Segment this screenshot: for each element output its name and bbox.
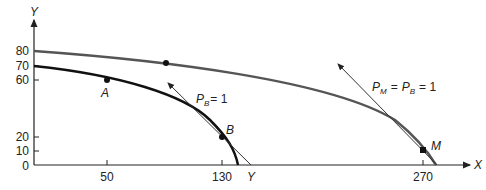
outer-frontier	[34, 51, 436, 165]
y-ticks: 80 70 60 20 10 0	[16, 44, 39, 173]
point-a	[104, 77, 110, 83]
svg-text:270: 270	[413, 170, 433, 184]
point-m	[420, 147, 426, 153]
svg-text:60: 60	[16, 73, 30, 87]
svg-text:70: 70	[16, 59, 30, 73]
chart: Y X 80 70 60 20 10 0 50 130 Y 270 A B M …	[0, 0, 486, 190]
x-ticks: 50 130 Y 270	[100, 160, 433, 184]
svg-text:80: 80	[16, 44, 30, 58]
svg-text:Y: Y	[247, 170, 256, 184]
x-axis-label: X	[473, 158, 483, 172]
svg-text:0: 0	[22, 159, 29, 173]
svg-text:130: 130	[212, 170, 232, 184]
svg-text:20: 20	[16, 130, 30, 144]
point-b	[219, 134, 225, 140]
label-a: A	[100, 86, 109, 100]
annotation-pb: PB= 1	[196, 92, 228, 108]
inner-frontier	[34, 66, 238, 165]
svg-text:10: 10	[16, 144, 30, 158]
point-top	[163, 60, 169, 66]
y-axis-label: Y	[30, 5, 39, 19]
annotation-pm-pb: PM=PB= 1	[372, 80, 436, 96]
label-m: M	[431, 139, 441, 153]
svg-text:50: 50	[100, 170, 114, 184]
label-b: B	[226, 123, 234, 137]
